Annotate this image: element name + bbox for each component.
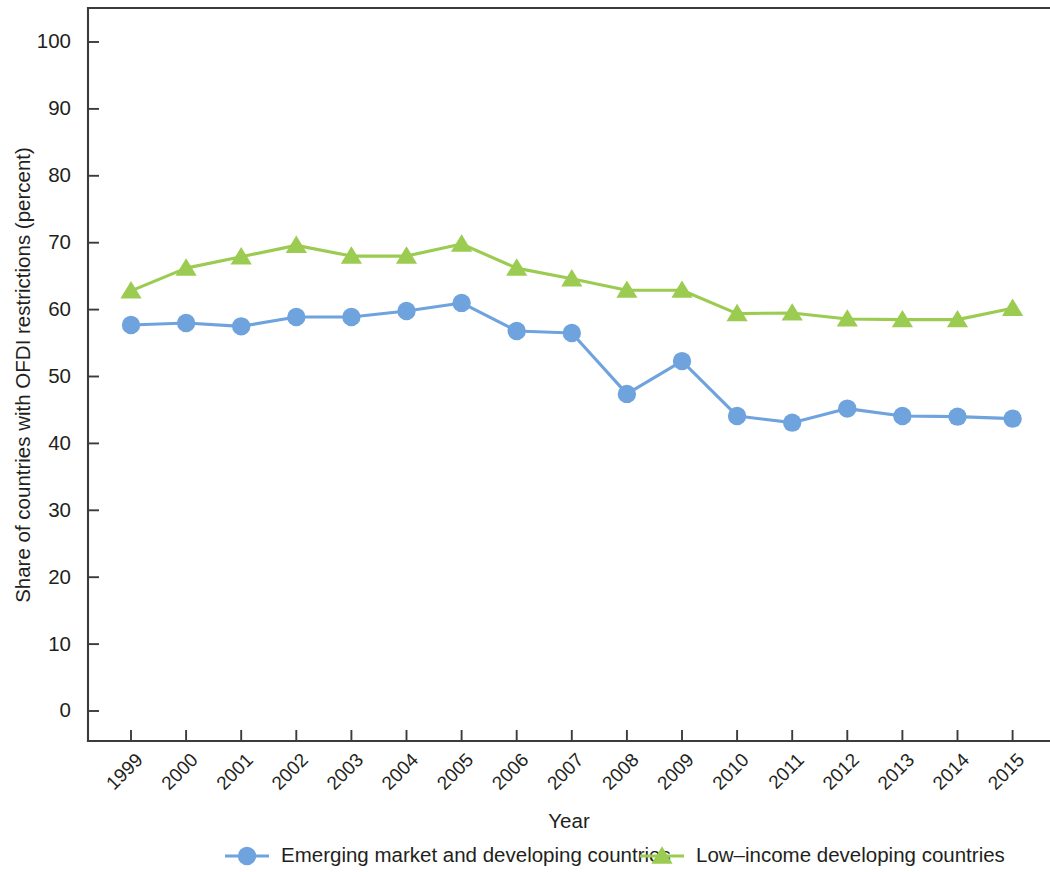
y-tick-label-30: 30 <box>48 498 71 521</box>
y-tick-label-20: 20 <box>48 565 71 588</box>
data-point-2002[interactable] <box>287 308 305 326</box>
data-point-2004[interactable] <box>397 302 415 320</box>
legend-label: Emerging market and developing countries <box>281 843 671 866</box>
chart-legend: Emerging market and developing countries… <box>225 843 1005 866</box>
data-point-2002[interactable] <box>286 236 307 253</box>
data-point-2014[interactable] <box>948 407 966 425</box>
legend-swatch-marker <box>238 847 256 865</box>
x-axis-tick-labels: 1999200020012002200320042005200620072008… <box>102 749 1028 794</box>
series-low-income <box>120 234 1023 327</box>
data-point-2003[interactable] <box>342 308 360 326</box>
y-tick-label-60: 60 <box>48 297 71 320</box>
data-point-1999[interactable] <box>122 316 140 334</box>
legend-item-emerging-market[interactable]: Emerging market and developing countries <box>225 843 671 866</box>
y-axis-tick-labels: 0102030405060708090100 <box>37 29 71 721</box>
data-point-2012[interactable] <box>838 399 856 417</box>
y-tick-label-10: 10 <box>48 632 71 655</box>
chart-figure: 0102030405060708090100 19992000200120022… <box>0 0 1050 872</box>
x-axis-title: Year <box>548 809 590 832</box>
legend-item-low-income[interactable]: Low–income developing countries <box>640 843 1005 866</box>
x-tick-label-2010: 2010 <box>708 749 753 794</box>
legend-label: Low–income developing countries <box>696 843 1005 866</box>
x-tick-label-2006: 2006 <box>488 749 533 794</box>
x-tick-label-2002: 2002 <box>267 749 312 794</box>
data-point-2006[interactable] <box>506 258 527 275</box>
y-tick-label-80: 80 <box>48 163 71 186</box>
y-tick-label-90: 90 <box>48 96 71 119</box>
x-tick-label-2012: 2012 <box>818 749 863 794</box>
y-axis-title: Share of countries with OFDI restriction… <box>11 147 34 603</box>
data-point-2013[interactable] <box>893 407 911 425</box>
x-tick-label-2000: 2000 <box>157 749 202 794</box>
data-point-2007[interactable] <box>563 324 581 342</box>
series-layer <box>120 234 1023 432</box>
y-tick-label-50: 50 <box>48 364 71 387</box>
data-point-2011[interactable] <box>783 413 801 431</box>
y-tick-label-40: 40 <box>48 431 71 454</box>
data-point-2005[interactable] <box>451 234 472 251</box>
data-point-2005[interactable] <box>452 294 470 312</box>
x-tick-label-2009: 2009 <box>653 749 698 794</box>
data-point-2008[interactable] <box>618 385 636 403</box>
y-tick-label-100: 100 <box>37 29 71 52</box>
x-tick-label-2003: 2003 <box>322 749 367 794</box>
x-tick-label-2007: 2007 <box>543 749 588 794</box>
data-point-2015[interactable] <box>1003 409 1021 427</box>
x-tick-label-2014: 2014 <box>929 749 974 794</box>
x-tick-label-2001: 2001 <box>212 749 257 794</box>
data-point-2001[interactable] <box>232 317 250 335</box>
x-tick-label-1999: 1999 <box>102 749 147 794</box>
x-tick-label-2013: 2013 <box>873 749 918 794</box>
data-point-2015[interactable] <box>1002 299 1023 316</box>
x-axis-ticks <box>131 730 1013 741</box>
series-emerging-market <box>122 294 1022 432</box>
x-tick-label-2005: 2005 <box>433 749 478 794</box>
data-point-2006[interactable] <box>508 322 526 340</box>
data-point-2009[interactable] <box>673 352 691 370</box>
data-point-2010[interactable] <box>728 407 746 425</box>
data-point-1999[interactable] <box>120 281 141 298</box>
x-tick-label-2008: 2008 <box>598 749 643 794</box>
x-tick-label-2004: 2004 <box>378 749 423 794</box>
data-point-2000[interactable] <box>177 314 195 332</box>
x-tick-label-2011: 2011 <box>764 749 808 793</box>
y-tick-label-0: 0 <box>60 698 71 721</box>
y-axis-ticks <box>88 42 99 711</box>
x-tick-label-2015: 2015 <box>984 749 1029 794</box>
y-tick-label-70: 70 <box>48 230 71 253</box>
line-chart: 0102030405060708090100 19992000200120022… <box>0 0 1050 872</box>
